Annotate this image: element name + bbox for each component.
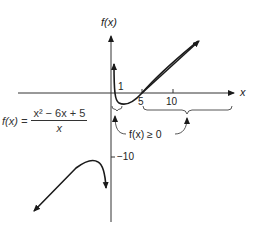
x-tick-label-1: 1 <box>118 81 124 92</box>
annotation-nonnegative: f(x) ≥ 0 <box>129 128 162 140</box>
x-tick-label-10: 10 <box>166 96 177 107</box>
y-axis-label: f(x) <box>101 16 117 28</box>
curve-left-branch <box>98 162 106 188</box>
annotation-arrow-left <box>115 116 126 134</box>
formula-numerator: x² − 6x + 5 <box>31 107 87 121</box>
annotation-arrow-right <box>175 118 187 134</box>
x-axis-label: x <box>240 86 246 98</box>
curve-right-arrow-end <box>142 41 199 93</box>
brace-interval-5-inf <box>143 106 232 114</box>
curve-right-branch <box>114 41 198 104</box>
formula-lhs: f(x) = <box>2 115 27 127</box>
brace-interval-0-1 <box>112 106 122 111</box>
formula-denominator: x <box>57 121 63 134</box>
function-formula: f(x) = x² − 6x + 5 x <box>2 107 87 134</box>
curve-left-branch-main <box>34 160 98 211</box>
x-tick-label-5: 5 <box>138 96 144 107</box>
formula-fraction: x² − 6x + 5 x <box>31 107 87 134</box>
y-tick-label-neg10: −10 <box>117 151 134 162</box>
